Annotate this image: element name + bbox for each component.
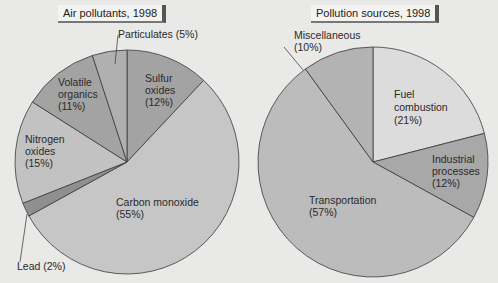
lead-leader	[20, 214, 27, 262]
label-lead: Lead (2%)	[17, 260, 65, 272]
pie-charts: Particulates (5%) Volatile organics (11%…	[0, 0, 498, 283]
label-particulates: Particulates (5%)	[118, 28, 198, 40]
